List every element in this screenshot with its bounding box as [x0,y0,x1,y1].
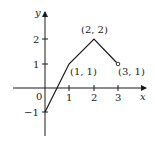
x-tick-label-3: 3 [115,92,121,103]
point-label-3-1: (3, 1) [118,66,145,77]
origin-label: 0 [36,91,42,102]
y-tick-label-neg1: −1 [24,107,39,118]
y-tick-label-2: 2 [33,34,39,45]
x-tick-label-2: 2 [91,92,97,103]
point-label-1-1: (1, 1) [70,66,97,77]
x-tick-label-1: 1 [66,92,72,103]
x-axis-label: x [140,91,146,102]
y-axis-label: y [34,7,41,18]
graph-canvas: y x 0 1 2 3 2 1 −1 (1, 1) (2, 2) (3, 1) [0,0,155,148]
y-tick-label-1: 1 [33,59,39,70]
point-label-2-2: (2, 2) [81,24,108,35]
